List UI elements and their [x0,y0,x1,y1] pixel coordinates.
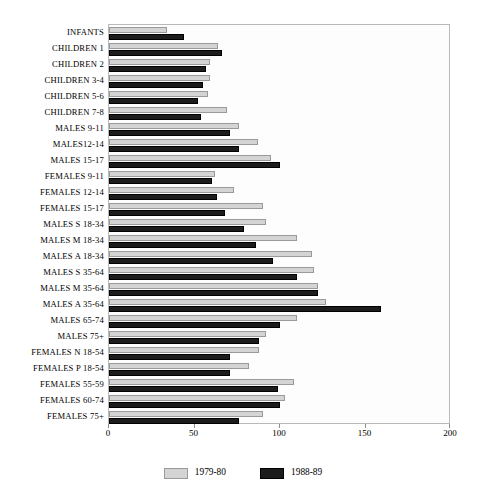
category-label: FEMALES 9-11 [0,172,104,181]
bar-group [109,187,449,201]
category-label: FEMALES 12-14 [0,188,104,197]
bar-1988-89 [109,338,259,344]
bar-1988-89 [109,210,225,216]
bar-group [109,363,449,377]
category-label: MALES S 35-64 [0,268,104,277]
bar-1988-89 [109,130,230,136]
bar-1979-80 [109,219,266,225]
bar-group [109,379,449,393]
bar-1979-80 [109,139,258,145]
bar-1988-89 [109,306,381,312]
category-label: FEMALES 15-17 [0,204,104,213]
legend-label: 1979-80 [195,468,226,477]
bar-group [109,27,449,41]
bar-1979-80 [109,171,215,177]
bar-group [109,155,449,169]
bar-group [109,395,449,409]
bar-1979-80 [109,235,297,241]
bar-1979-80 [109,283,318,289]
bar-group [109,299,449,313]
bar-1979-80 [109,379,294,385]
category-label: MALES M 35-64 [0,284,104,293]
bar-1979-80 [109,267,314,273]
bar-1979-80 [109,315,297,321]
bar-1988-89 [109,50,222,56]
bar-group [109,43,449,57]
bar-1988-89 [109,418,239,424]
category-label: CHILDREN 2 [0,60,104,69]
bar-group [109,123,449,137]
category-label: FEMALES 55-59 [0,380,104,389]
category-label: FEMALES 60-74 [0,396,104,405]
bar-1988-89 [109,402,280,408]
bar-1988-89 [109,258,273,264]
category-label: CHILDREN 1 [0,44,104,53]
bar-group [109,59,449,73]
x-tick-label: 100 [272,429,286,438]
bar-1979-80 [109,299,326,305]
bar-1979-80 [109,123,239,129]
bar-1988-89 [109,226,244,232]
bar-1988-89 [109,114,201,120]
x-tick-label: 150 [358,429,372,438]
bar-1988-89 [109,386,278,392]
category-label: INFANTS [0,28,104,37]
category-label: FEMALES 75+ [0,412,104,421]
bar-1988-89 [109,290,318,296]
bar-1988-89 [109,66,206,72]
category-label: MALES 65-74 [0,316,104,325]
category-axis: INFANTSCHILDREN 1CHILDREN 2CHILDREN 3-4C… [0,24,104,424]
x-tick-label: 0 [106,429,111,438]
bar-1988-89 [109,82,203,88]
category-label: MALES 75+ [0,332,104,341]
bar-group [109,331,449,345]
category-label: CHILDREN 7-8 [0,108,104,117]
bar-group [109,219,449,233]
bar-group [109,91,449,105]
category-label: MALES A 18-34 [0,252,104,261]
bar-1979-80 [109,203,263,209]
category-label: MALES 9-11 [0,124,104,133]
bar-1988-89 [109,98,198,104]
bar-1988-89 [109,322,280,328]
legend-swatch-icon [260,468,284,479]
bar-group [109,203,449,217]
category-label: MALES 15-17 [0,156,104,165]
bar-1988-89 [109,34,184,40]
bar-1979-80 [109,91,208,97]
bar-group [109,171,449,185]
bar-1979-80 [109,363,249,369]
category-label: MALES M 18-34 [0,236,104,245]
bar-chart: INFANTSCHILDREN 1CHILDREN 2CHILDREN 3-4C… [0,0,486,493]
bar-1979-80 [109,107,227,113]
bar-group [109,411,449,425]
bar-group [109,283,449,297]
legend-label: 1988-89 [291,468,322,477]
bar-group [109,235,449,249]
category-label: CHILDREN 5-6 [0,92,104,101]
bar-1979-80 [109,27,167,33]
chart-legend: 1979-801988-89 [0,462,486,484]
category-label: MALES S 18-34 [0,220,104,229]
category-label: CHILDREN 3-4 [0,76,104,85]
legend-swatch-icon [164,468,188,479]
bar-group [109,347,449,361]
bar-1979-80 [109,59,210,65]
bar-1979-80 [109,75,210,81]
category-label: MALES A 35-64 [0,300,104,309]
bar-group [109,75,449,89]
bar-1979-80 [109,43,218,49]
bar-1988-89 [109,178,212,184]
bar-1988-89 [109,354,230,360]
category-label: MALES12-14 [0,140,104,149]
bar-group [109,139,449,153]
bar-group [109,251,449,265]
bar-1988-89 [109,370,230,376]
bar-1979-80 [109,347,259,353]
plot-area [108,24,450,424]
bar-1979-80 [109,331,266,337]
x-tick-label: 200 [443,429,457,438]
x-axis: 050100150200 [108,424,450,446]
category-label: FEMALES P 18-54 [0,364,104,373]
bar-1979-80 [109,251,312,257]
